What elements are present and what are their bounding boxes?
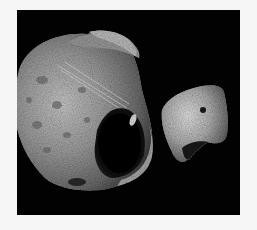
moons-photo bbox=[17, 10, 240, 215]
deimos bbox=[162, 85, 228, 162]
deimos-crater bbox=[200, 107, 206, 113]
photo-frame bbox=[17, 10, 240, 215]
phobos bbox=[17, 30, 153, 190]
